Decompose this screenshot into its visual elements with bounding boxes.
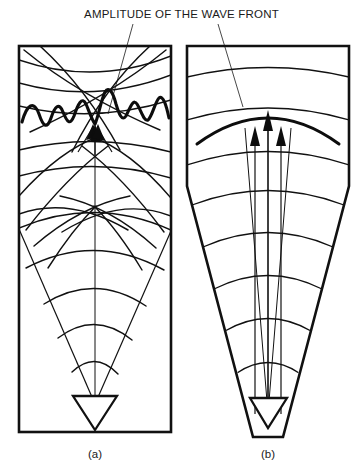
leader-line-to-panel-b xyxy=(218,24,243,107)
panel-a-label: (a) xyxy=(88,448,102,460)
transducer-icon-a xyxy=(73,396,117,430)
panel-b-interior xyxy=(187,68,349,415)
figure-title: AMPLITUDE OF THE WAVE FRONT xyxy=(84,8,279,20)
arrowhead-left-b xyxy=(250,126,260,146)
arrowhead-center-b xyxy=(263,110,273,131)
leader-line-to-panel-a xyxy=(108,24,133,114)
panel-b: (b) xyxy=(187,46,349,460)
arrowhead-right-b xyxy=(276,126,286,146)
panel-a-amplitude-trace xyxy=(22,90,169,126)
panel-a: (a) xyxy=(19,46,171,460)
panel-b-label: (b) xyxy=(261,448,275,460)
panel-a-interior xyxy=(19,46,171,404)
panel-b-arrows xyxy=(250,110,286,414)
wavefront-figure: AMPLITUDE OF THE WAVE FRONT xyxy=(0,0,363,474)
